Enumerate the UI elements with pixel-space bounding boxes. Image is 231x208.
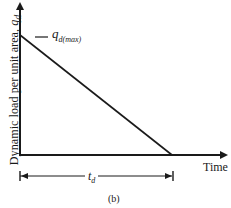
x-axis-label: Time xyxy=(203,160,228,175)
x-axis-arrow-icon xyxy=(220,151,228,159)
chart-canvas xyxy=(0,0,231,208)
load-line xyxy=(20,35,172,155)
duration-label: td xyxy=(85,169,98,185)
td-left-arrow-icon xyxy=(21,173,28,179)
y-axis-label: Dynamic load per unit area, qd xyxy=(7,15,23,165)
y-axis-arrow-icon xyxy=(16,2,24,10)
td-right-arrow-icon xyxy=(165,173,172,179)
peak-label: qd(max) xyxy=(52,26,81,44)
figure-caption: (b) xyxy=(108,193,120,204)
